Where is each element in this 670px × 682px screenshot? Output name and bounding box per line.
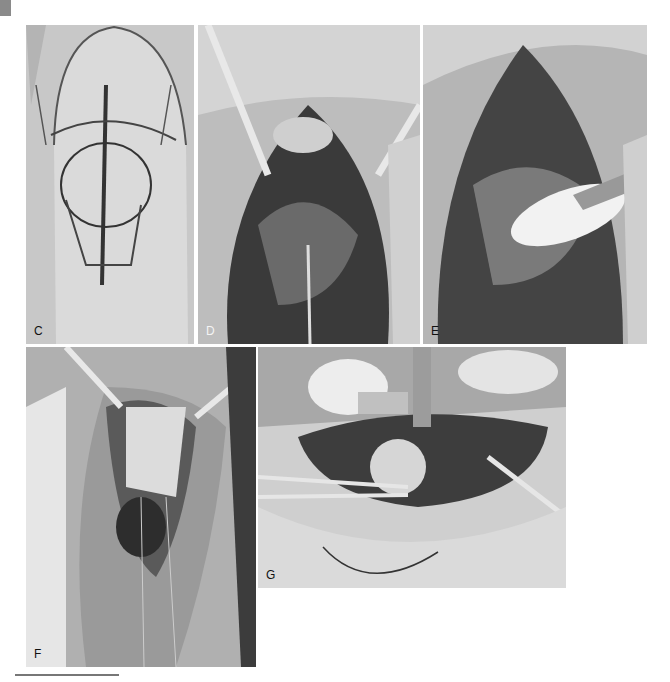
panel-label-e: E xyxy=(431,324,439,338)
panel-c: C xyxy=(26,25,194,344)
panel-label-c: C xyxy=(34,324,43,338)
panel-f: F xyxy=(26,347,256,667)
panel-d-image xyxy=(198,25,420,344)
panel-label-d: D xyxy=(206,324,215,338)
panel-d: D xyxy=(198,25,420,344)
panel-label-f: F xyxy=(34,647,41,661)
panel-f-image xyxy=(26,347,256,667)
scale-bar xyxy=(15,674,119,676)
panel-e-image xyxy=(423,25,647,344)
panel-label-g: G xyxy=(266,568,275,582)
panel-g-image xyxy=(258,347,566,588)
chapter-tab-marker xyxy=(0,0,11,16)
panel-g: G xyxy=(258,347,566,588)
panel-e: E xyxy=(423,25,647,344)
panel-c-image xyxy=(26,25,194,344)
